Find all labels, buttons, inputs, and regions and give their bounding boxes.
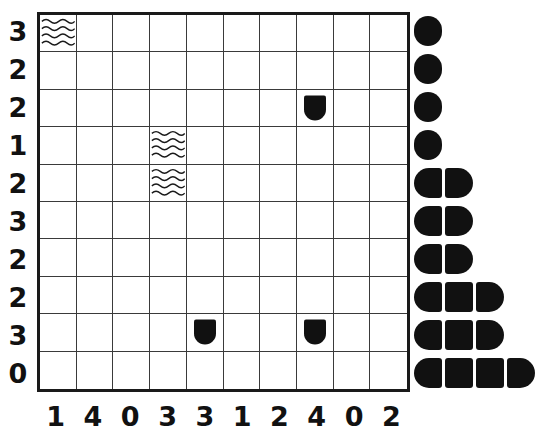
grid-cell[interactable] <box>297 352 334 389</box>
grid-cell[interactable] <box>297 202 334 239</box>
grid-cell[interactable] <box>370 202 407 239</box>
grid-cell[interactable] <box>113 52 150 89</box>
grid-cell[interactable] <box>187 277 224 314</box>
grid-cell[interactable] <box>77 90 114 127</box>
grid-cell[interactable] <box>260 90 297 127</box>
grid-cell[interactable] <box>260 239 297 276</box>
grid-cell[interactable] <box>260 127 297 164</box>
grid-cell[interactable] <box>113 127 150 164</box>
grid-cell[interactable] <box>370 52 407 89</box>
grid-cell[interactable] <box>370 314 407 351</box>
grid-cell[interactable] <box>150 15 187 52</box>
grid-cell[interactable] <box>187 15 224 52</box>
grid-cell[interactable] <box>150 127 187 164</box>
grid-cell[interactable] <box>150 90 187 127</box>
grid-cell[interactable] <box>40 90 77 127</box>
grid-cell[interactable] <box>224 352 261 389</box>
grid-cell[interactable] <box>260 52 297 89</box>
grid-cell[interactable] <box>297 90 334 127</box>
grid-cell[interactable] <box>113 165 150 202</box>
grid-cell[interactable] <box>224 127 261 164</box>
grid-cell[interactable] <box>297 127 334 164</box>
grid-cell[interactable] <box>40 202 77 239</box>
grid-cell[interactable] <box>77 202 114 239</box>
grid-cell[interactable] <box>370 15 407 52</box>
grid-cell[interactable] <box>334 90 371 127</box>
grid-cell[interactable] <box>334 52 371 89</box>
grid-cell[interactable] <box>370 352 407 389</box>
grid-cell[interactable] <box>224 90 261 127</box>
grid-cell[interactable] <box>297 165 334 202</box>
grid-cell[interactable] <box>150 239 187 276</box>
grid-cell[interactable] <box>334 239 371 276</box>
grid-cell[interactable] <box>187 165 224 202</box>
puzzle-grid[interactable] <box>37 12 410 392</box>
grid-cell[interactable] <box>77 314 114 351</box>
grid-cell[interactable] <box>77 165 114 202</box>
grid-cell[interactable] <box>77 239 114 276</box>
grid-cell[interactable] <box>260 15 297 52</box>
grid-cell[interactable] <box>224 202 261 239</box>
grid-cell[interactable] <box>334 202 371 239</box>
grid-cell[interactable] <box>187 239 224 276</box>
grid-cell[interactable] <box>224 15 261 52</box>
grid-cell[interactable] <box>370 127 407 164</box>
grid-cell[interactable] <box>150 165 187 202</box>
grid-cell[interactable] <box>77 277 114 314</box>
grid-cell[interactable] <box>334 127 371 164</box>
grid-cell[interactable] <box>260 277 297 314</box>
grid-cell[interactable] <box>297 52 334 89</box>
grid-cell[interactable] <box>113 90 150 127</box>
grid-cell[interactable] <box>297 314 334 351</box>
grid-cell[interactable] <box>224 52 261 89</box>
grid-cell[interactable] <box>113 277 150 314</box>
grid-cell[interactable] <box>334 15 371 52</box>
grid-cell[interactable] <box>224 277 261 314</box>
grid-cell[interactable] <box>40 15 77 52</box>
grid-cell[interactable] <box>370 239 407 276</box>
grid-cell[interactable] <box>187 52 224 89</box>
grid-cell[interactable] <box>224 165 261 202</box>
grid-cell[interactable] <box>77 127 114 164</box>
grid-cell[interactable] <box>77 52 114 89</box>
grid-cell[interactable] <box>40 314 77 351</box>
grid-cell[interactable] <box>187 90 224 127</box>
grid-cell[interactable] <box>334 165 371 202</box>
grid-cell[interactable] <box>150 352 187 389</box>
grid-cell[interactable] <box>40 52 77 89</box>
grid-cell[interactable] <box>224 239 261 276</box>
grid-cell[interactable] <box>113 314 150 351</box>
grid-cell[interactable] <box>260 165 297 202</box>
grid-cell[interactable] <box>297 15 334 52</box>
grid-cell[interactable] <box>334 352 371 389</box>
grid-cell[interactable] <box>150 202 187 239</box>
grid-cell[interactable] <box>260 314 297 351</box>
grid-cell[interactable] <box>370 90 407 127</box>
grid-cells[interactable] <box>40 15 407 389</box>
grid-cell[interactable] <box>260 202 297 239</box>
grid-cell[interactable] <box>77 352 114 389</box>
grid-cell[interactable] <box>113 352 150 389</box>
grid-cell[interactable] <box>40 277 77 314</box>
grid-cell[interactable] <box>40 352 77 389</box>
grid-cell[interactable] <box>150 277 187 314</box>
grid-cell[interactable] <box>40 239 77 276</box>
grid-cell[interactable] <box>77 15 114 52</box>
grid-cell[interactable] <box>113 15 150 52</box>
grid-cell[interactable] <box>40 165 77 202</box>
grid-cell[interactable] <box>334 277 371 314</box>
grid-cell[interactable] <box>370 277 407 314</box>
grid-cell[interactable] <box>150 52 187 89</box>
grid-cell[interactable] <box>113 202 150 239</box>
grid-cell[interactable] <box>40 127 77 164</box>
grid-cell[interactable] <box>187 127 224 164</box>
grid-cell[interactable] <box>150 314 187 351</box>
grid-cell[interactable] <box>260 352 297 389</box>
grid-cell[interactable] <box>187 202 224 239</box>
grid-cell[interactable] <box>113 239 150 276</box>
grid-cell[interactable] <box>187 352 224 389</box>
grid-cell[interactable] <box>370 165 407 202</box>
grid-cell[interactable] <box>297 239 334 276</box>
grid-cell[interactable] <box>334 314 371 351</box>
grid-cell[interactable] <box>297 277 334 314</box>
